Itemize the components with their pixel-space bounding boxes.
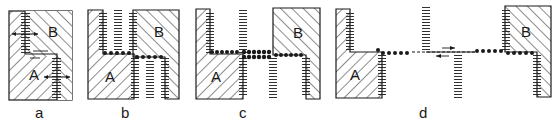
panel-label-b: b xyxy=(121,104,129,121)
grain-b-label-c: B xyxy=(293,24,303,41)
panel-label-d: d xyxy=(419,104,427,121)
grain-b-label-a: B xyxy=(48,23,58,40)
panel-b: B A xyxy=(88,10,179,100)
grain-a-label-a: A xyxy=(29,66,39,83)
panel-d: B A xyxy=(336,6,551,98)
grain-a-label-d: A xyxy=(350,66,360,83)
panel-c: B A xyxy=(196,8,320,99)
panel-label-c: c xyxy=(239,104,247,121)
grain-b-label-b: B xyxy=(154,23,164,40)
grain-b-label-d: B xyxy=(521,23,531,40)
grain-a-label-b: A xyxy=(105,68,115,85)
panel-label-a: a xyxy=(35,104,43,121)
panel-a: B A xyxy=(9,11,72,100)
grain-a-label-c: A xyxy=(211,68,221,85)
shear-diagram: B A B A B A xyxy=(0,0,557,128)
